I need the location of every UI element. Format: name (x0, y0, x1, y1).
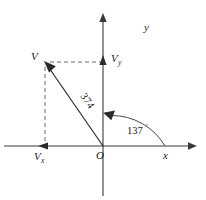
x-axis-arrowhead (188, 142, 197, 150)
vx-component-arrowhead (38, 142, 48, 149)
svg-text:y: y (117, 58, 122, 67)
vx-component-label: V x (34, 150, 45, 165)
vector-v-arrowhead (44, 61, 56, 73)
y-axis-arrowhead (99, 13, 106, 22)
vector-magnitude-label: 374 (78, 91, 97, 111)
svg-text:º: º (146, 123, 148, 130)
x-axis-label: x (162, 149, 168, 161)
vector-v-line (51, 70, 104, 146)
svg-text:374: 374 (78, 91, 97, 111)
vector-tip-label: V (31, 50, 39, 62)
diagram-canvas: V y x O V y V x 374 137 º (0, 0, 206, 200)
vy-component-arrowhead (99, 55, 106, 65)
origin-label: O (96, 149, 104, 161)
svg-text:137: 137 (127, 125, 143, 136)
svg-text:x: x (40, 156, 45, 165)
vy-component-label: V y (111, 52, 122, 67)
vector-diagram-figure: V y x O V y V x 374 137 º (0, 0, 206, 200)
y-axis-label: y (143, 21, 149, 33)
